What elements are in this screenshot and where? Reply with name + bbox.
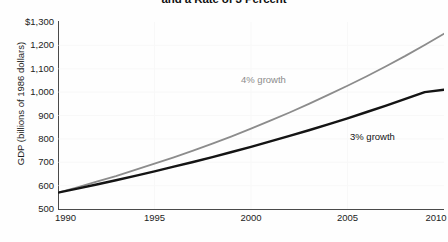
- x-tick-label: 1990: [55, 212, 76, 223]
- x-axis-tick-labels: 19901995200020052010: [0, 212, 448, 230]
- x-tick-label: 2005: [337, 212, 358, 223]
- x-axis-line: [58, 209, 444, 210]
- y-tick-label: 700: [0, 156, 54, 167]
- chart-figure: and a Rate of 3 Percent GDP (billions of…: [0, 0, 448, 242]
- series-label-3-percent: 3% growth: [350, 131, 395, 142]
- y-tick-label: 900: [0, 110, 54, 121]
- series-label-4-percent: 4% growth: [241, 74, 286, 85]
- chart-plot-area: [58, 22, 444, 209]
- x-tick-label: 2000: [240, 212, 261, 223]
- chart-title: and a Rate of 3 Percent: [0, 0, 448, 6]
- y-tick-label: 1,100: [0, 63, 54, 74]
- y-tick-label: 1,200: [0, 39, 54, 50]
- y-axis-tick-labels: 5006007008009001,0001,1001,200$1,300: [0, 0, 54, 242]
- y-tick-label: $1,300: [0, 16, 54, 27]
- series-line-4-percent: [58, 34, 444, 193]
- y-tick-label: 600: [0, 180, 54, 191]
- y-tick-label: 1,000: [0, 86, 54, 97]
- x-tick-label: 1995: [144, 212, 165, 223]
- x-tick-label: 2010: [425, 212, 446, 223]
- series-lines: [58, 34, 444, 193]
- y-tick-label: 800: [0, 133, 54, 144]
